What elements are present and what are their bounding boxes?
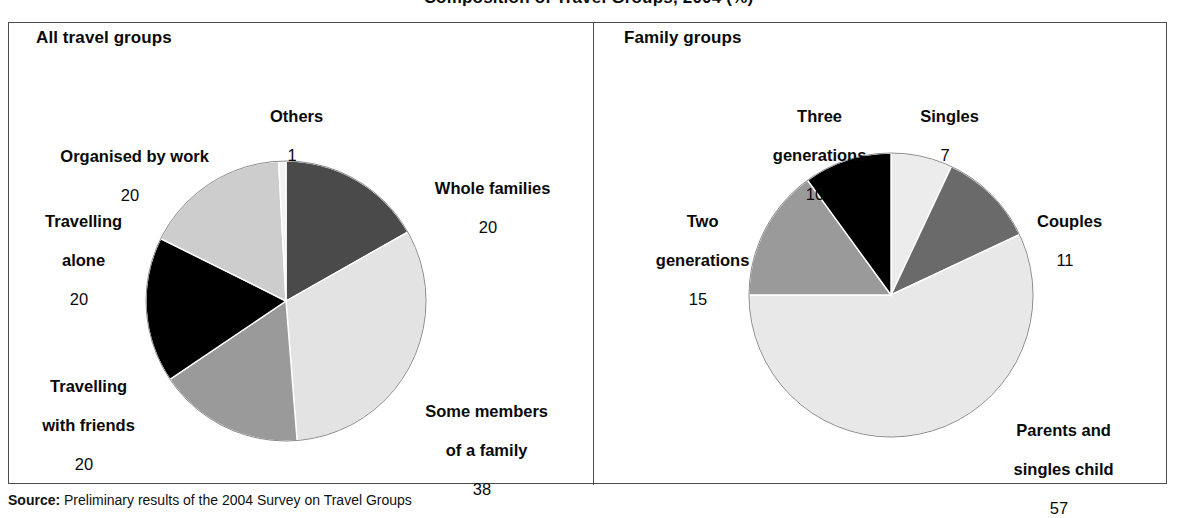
slice-label-some-members-line2: of a family <box>446 441 528 459</box>
slice-label-whole-families-name: Whole families <box>435 179 551 197</box>
slice-label-travelling-alone: Travelling alone 20 <box>18 193 140 329</box>
slice-label-three-generations-line1: Three <box>797 107 842 125</box>
slice-label-couples-value: 11 <box>1002 251 1128 270</box>
slice-label-couples: Couples 11 <box>1002 193 1128 290</box>
slice-label-parents-line2: singles child <box>1014 460 1114 478</box>
slice-label-travelling-with-friends-value: 20 <box>8 455 160 474</box>
slice-label-two-generations: Two generations 15 <box>628 193 768 329</box>
slice-label-travelling-alone-line2: alone <box>62 251 105 269</box>
source-caption-text: Preliminary results of the 2004 Survey o… <box>64 492 412 508</box>
slice-label-whole-families-value: 20 <box>398 218 578 237</box>
slice-label-couples-name: Couples <box>1037 212 1102 230</box>
slice-label-two-generations-value: 15 <box>628 290 768 309</box>
panel-heading-all-travel-groups: All travel groups <box>36 28 172 48</box>
slice-label-travelling-with-friends-line2: with friends <box>42 416 135 434</box>
slice-label-travelling-alone-line1: Travelling <box>45 212 122 230</box>
slice-label-some-members-of-a-family: Some members of a family 38 <box>384 383 580 518</box>
slice-label-parents-line1: Parents and <box>1016 421 1110 439</box>
slice-label-travelling-with-friends-line1: Travelling <box>50 377 127 395</box>
panel-divider <box>593 23 594 485</box>
figure-title: Composition of Travel Groups, 2004 (%) <box>0 0 1177 8</box>
slice-label-travelling-with-friends: Travelling with friends 20 <box>8 358 160 494</box>
slice-label-singles-name: Singles <box>920 107 979 125</box>
slice-label-organised-by-work-name: Organised by work <box>60 147 209 165</box>
slice-label-others: Others 1 <box>232 88 352 185</box>
slice-label-some-members-line1: Some members <box>425 402 548 420</box>
slice-label-singles-value: 7 <box>890 146 1000 165</box>
slice-label-two-generations-line2: generations <box>656 251 750 269</box>
slice-label-some-members-value: 38 <box>384 480 580 499</box>
slice-label-travelling-alone-value: 20 <box>18 290 140 309</box>
panel-heading-family-groups: Family groups <box>624 28 742 48</box>
slice-label-others-name: Others <box>270 107 323 125</box>
slice-label-two-generations-line1: Two <box>687 212 719 230</box>
slice-label-parents-and-singles-child: Parents and singles child 57 <box>966 402 1152 518</box>
slice-label-others-value: 1 <box>232 146 352 165</box>
slice-label-parents-value: 57 <box>966 499 1152 518</box>
source-caption-label: Source: <box>8 492 60 508</box>
slice-label-three-generations-line2: generations <box>773 146 867 164</box>
slice-label-whole-families: Whole families 20 <box>398 160 578 257</box>
slice-label-singles: Singles 7 <box>890 88 1000 185</box>
source-caption: Source: Preliminary results of the 2004 … <box>8 492 412 508</box>
